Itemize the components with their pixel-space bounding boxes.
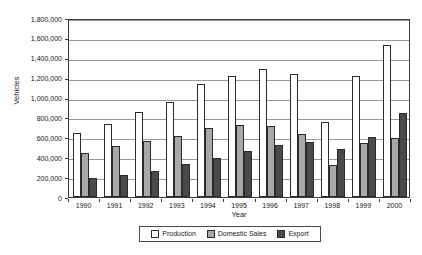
- bar-production: [104, 124, 112, 197]
- x-axis-tick-label: 1994: [200, 202, 216, 210]
- bar-production: [135, 112, 143, 197]
- bar-group: [162, 20, 193, 197]
- x-axis-tick-mark: [68, 199, 69, 202]
- legend-item-domestic[interactable]: Domestic Sales: [207, 230, 267, 238]
- x-axis-tick-label: 1991: [107, 202, 123, 210]
- bar-group: [287, 20, 318, 197]
- bar-export: [151, 171, 159, 197]
- x-axis-tick-label: 1999: [356, 202, 372, 210]
- bar-group: [193, 20, 224, 197]
- bar-export: [399, 113, 407, 197]
- bar-production: [228, 76, 236, 197]
- bar-group: [256, 20, 287, 197]
- bar-domestic: [329, 165, 337, 197]
- y-axis-tick-label: 1,600,000: [31, 35, 62, 42]
- x-axis-tick-label: 1992: [138, 202, 154, 210]
- x-axis-tick-label: 1996: [262, 202, 278, 210]
- bar-domestic: [391, 138, 399, 197]
- bar-production: [383, 45, 391, 197]
- bar-export: [306, 142, 314, 197]
- bar-group: [318, 20, 349, 197]
- x-axis-tick-label: 1990: [76, 202, 92, 210]
- y-axis-tick-label: 1,000,000: [31, 95, 62, 102]
- x-axis-tick-mark: [223, 199, 224, 202]
- bar-group: [69, 20, 100, 197]
- bar-group: [380, 20, 411, 197]
- legend-item-export[interactable]: Export: [277, 230, 308, 238]
- bar-export: [182, 164, 190, 197]
- x-axis-title: Year: [68, 210, 410, 219]
- bar-group: [349, 20, 380, 197]
- x-axis-tick-mark: [410, 199, 411, 202]
- bar-production: [73, 133, 81, 197]
- x-axis-tick-mark: [317, 199, 318, 202]
- x-axis-tick-mark: [286, 199, 287, 202]
- y-axis-title: Vehicles: [12, 61, 21, 121]
- x-axis-tick-label: 1998: [324, 202, 340, 210]
- x-axis-tick-mark: [130, 199, 131, 202]
- bar-domestic: [267, 126, 275, 197]
- y-axis-tick-label: 800,000: [37, 115, 62, 122]
- bar-production: [197, 84, 205, 197]
- y-axis-tick-label: 1,200,000: [31, 75, 62, 82]
- chart-legend: ProductionDomestic SalesExport: [139, 226, 321, 242]
- legend-item-production[interactable]: Production: [151, 230, 195, 238]
- bar-group: [131, 20, 162, 197]
- bar-production: [259, 69, 267, 197]
- y-axis-tick-label: 600,000: [37, 135, 62, 142]
- bar-domestic: [205, 128, 213, 197]
- bar-domestic: [236, 125, 244, 197]
- x-axis-tick-mark: [379, 199, 380, 202]
- y-axis-tick-label: 1,400,000: [31, 55, 62, 62]
- bar-domestic: [360, 143, 368, 197]
- legend-swatch-icon: [207, 230, 215, 238]
- bar-production: [321, 122, 329, 197]
- y-axis-tick-label: 400,000: [37, 155, 62, 162]
- plot-area: [68, 19, 410, 198]
- bar-group: [100, 20, 131, 197]
- legend-label: Export: [288, 230, 308, 238]
- bar-domestic: [81, 153, 89, 197]
- x-axis-tick-mark: [348, 199, 349, 202]
- bar-export: [275, 145, 283, 197]
- bar-export: [337, 149, 345, 197]
- legend-label: Production: [162, 230, 195, 238]
- bar-domestic: [298, 134, 306, 197]
- y-axis-tick-label: 0: [58, 195, 62, 202]
- bar-export: [89, 178, 97, 197]
- bar-export: [244, 151, 252, 197]
- x-axis-tick-label: 2000: [387, 202, 403, 210]
- bar-export: [368, 137, 376, 197]
- bar-domestic: [112, 146, 120, 197]
- x-axis-tick-mark: [99, 199, 100, 202]
- legend-swatch-icon: [277, 230, 285, 238]
- bar-export: [213, 158, 221, 197]
- bar-domestic: [174, 136, 182, 197]
- y-axis-tick-label: 1,800,000: [31, 16, 62, 23]
- x-axis-tick-label: 1997: [293, 202, 309, 210]
- legend-label: Domestic Sales: [218, 230, 267, 238]
- x-axis-tick-mark: [192, 199, 193, 202]
- x-axis-tick-label: 1993: [169, 202, 185, 210]
- y-axis-tick-label: 200,000: [37, 175, 62, 182]
- legend-swatch-icon: [151, 230, 159, 238]
- x-axis-tick-label: 1995: [231, 202, 247, 210]
- bar-domestic: [143, 141, 151, 197]
- x-axis-tick-mark: [255, 199, 256, 202]
- bar-production: [352, 76, 360, 197]
- bar-production: [290, 74, 298, 197]
- bar-production: [166, 102, 174, 197]
- x-axis-tick-mark: [161, 199, 162, 202]
- y-axis: Vehicles 0200,000400,000600,000800,0001,…: [0, 0, 66, 255]
- bar-chart: Vehicles 0200,000400,000600,000800,0001,…: [0, 0, 422, 255]
- bar-export: [120, 175, 128, 197]
- bar-group: [224, 20, 255, 197]
- bar-groups: [69, 20, 409, 197]
